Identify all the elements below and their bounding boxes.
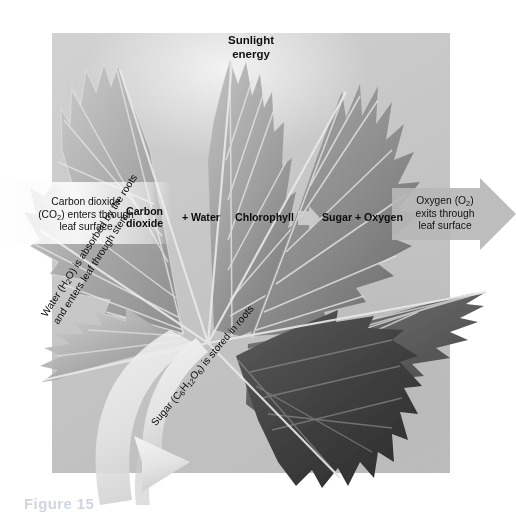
- equation-reactant-water: Water: [191, 212, 229, 224]
- photo-panel: [52, 33, 450, 473]
- o2-line-3: leaf surface: [390, 220, 500, 233]
- oxygen-exits-label: Oxygen (O2) exits through leaf surface: [390, 195, 500, 233]
- figure-root: Sunlight energy Carbon dioxide (CO2) ent…: [0, 0, 516, 513]
- equation-catalyst-chlorophyll: Chlorophyll: [229, 212, 298, 224]
- equation-products-sugar-oxygen: Sugar + Oxygen: [320, 212, 394, 224]
- equation-plus-1: +: [179, 212, 190, 224]
- o2-line-1: Oxygen (O2): [390, 195, 500, 208]
- equation-yields-arrow: [298, 205, 320, 231]
- figure-caption: Figure 15: [24, 495, 94, 512]
- equation-co2-line-2: dioxide: [126, 218, 179, 230]
- sunlight-energy-label: Sunlight energy: [186, 33, 316, 61]
- sunlight-line-2: energy: [186, 47, 316, 61]
- sunlight-line-1: Sunlight: [186, 33, 316, 47]
- photosynthesis-equation: Carbon dioxide + Water Chlorophyll Sugar…: [126, 198, 394, 238]
- o2-line-2: exits through: [390, 208, 500, 221]
